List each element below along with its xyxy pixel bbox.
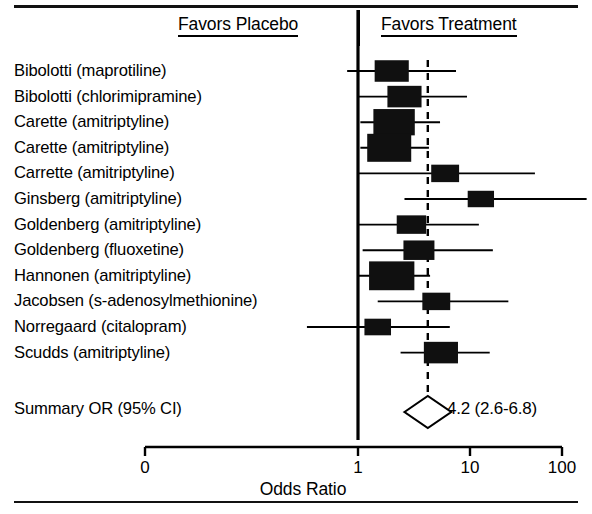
study-row <box>363 240 493 260</box>
effect-size-marker <box>369 261 414 290</box>
study-row <box>401 342 490 364</box>
study-row <box>358 86 467 108</box>
effect-size-marker <box>367 134 411 162</box>
effect-size-marker <box>422 293 450 310</box>
study-row <box>358 215 479 233</box>
study-row <box>347 60 456 82</box>
effect-size-marker <box>431 165 459 182</box>
effect-size-marker <box>403 240 434 260</box>
plot-canvas <box>0 0 592 514</box>
forest-plot-figure: Favors Placebo Favors Treatment Bibolott… <box>0 0 592 514</box>
summary-diamond <box>404 396 451 428</box>
axis-tick-label: 100 <box>548 458 576 478</box>
effect-size-marker <box>424 342 458 364</box>
axis-title-text: Odds Ratio <box>246 479 347 499</box>
axis-tick-label: 1 <box>353 458 362 478</box>
effect-size-marker <box>373 109 414 135</box>
effect-size-marker <box>364 319 391 336</box>
effect-size-marker <box>397 215 426 233</box>
study-row <box>404 191 586 207</box>
axis-title: Odds Ratio <box>0 479 592 499</box>
study-row <box>358 165 535 182</box>
study-row <box>360 134 429 162</box>
axis-tick-label: 10 <box>461 458 480 478</box>
effect-size-marker <box>375 60 409 82</box>
axis-tick-label: 0 <box>140 458 149 478</box>
study-row <box>378 293 509 310</box>
effect-size-marker <box>387 86 421 108</box>
study-row <box>358 261 430 290</box>
effect-size-marker <box>468 191 494 207</box>
